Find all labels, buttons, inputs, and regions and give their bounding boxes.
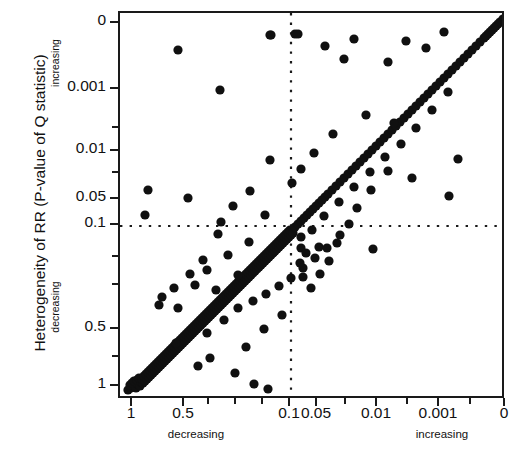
y-tick-label: 0.05 [0, 187, 106, 205]
x-axis-increasing-label: increasing [382, 428, 502, 440]
scatter-point [335, 230, 344, 239]
scatter-point [223, 250, 232, 259]
scatter-point [173, 45, 182, 54]
scatter-point [143, 185, 152, 194]
y-tick-label: 1 [0, 374, 106, 392]
scatter-point [411, 123, 420, 132]
scatter-point [396, 139, 405, 148]
scatter-point [421, 43, 430, 52]
scatter-point [401, 36, 410, 45]
scatter-point [453, 154, 462, 163]
scatter-point [427, 105, 436, 114]
x-tick-label: 0 [464, 404, 512, 422]
scatter-point [328, 129, 337, 138]
y-tick-label: 0.001 [0, 77, 106, 95]
scatter-point [202, 265, 211, 274]
scatter-point [286, 273, 295, 282]
scatter-points-layer [120, 13, 502, 396]
scatter-point [154, 300, 163, 309]
scatter-point [198, 255, 207, 264]
scatter-point [307, 225, 316, 234]
scatter-point [233, 270, 242, 279]
scatter-point [293, 29, 302, 38]
x-minor-tick-mark [207, 398, 209, 404]
scatter-point [380, 152, 389, 161]
scatter-point [365, 167, 374, 176]
scatter-point [193, 361, 202, 370]
scatter-point [349, 34, 358, 43]
scatter-point [309, 148, 318, 157]
scatter-point [241, 342, 250, 351]
scatter-point [140, 210, 149, 219]
scatter-point [314, 242, 323, 251]
scatter-point [185, 269, 194, 278]
scatter-point [444, 191, 453, 200]
scatter-point [216, 217, 225, 226]
scatter-point [287, 178, 296, 187]
scatter-point [296, 164, 305, 173]
y-tick-mark [110, 327, 118, 329]
scatter-point [296, 232, 305, 241]
scatter-point [310, 253, 319, 262]
scatter-point [349, 182, 358, 191]
scatter-point [339, 54, 348, 63]
scatter-point [228, 201, 237, 210]
scatter-point [298, 272, 307, 281]
x-minor-tick-mark [234, 398, 236, 404]
scatter-point [260, 210, 269, 219]
y-tick-mark [110, 21, 118, 23]
y-tick-mark [110, 384, 118, 386]
scatter-point [266, 30, 275, 39]
scatter-point [171, 338, 180, 347]
scatter-point [215, 85, 224, 94]
scatter-point [202, 328, 211, 337]
scatter-point [324, 256, 333, 265]
scatter-point [190, 280, 199, 289]
scatter-point [334, 197, 343, 206]
y-tick-label: 0.5 [0, 317, 106, 335]
scatter-point [261, 289, 270, 298]
scatter-point [319, 211, 328, 220]
scatter-point [298, 263, 307, 272]
scatter-point [407, 173, 416, 182]
y-tick-mark [110, 149, 118, 151]
scatter-point [230, 368, 239, 377]
scatter-point [274, 281, 283, 290]
scatter-plot-figure: Heterogeneity of RR (P-value of Q statis… [0, 0, 512, 462]
scatter-point [205, 353, 214, 362]
x-minor-tick-mark [261, 398, 263, 404]
scatter-point [344, 219, 353, 228]
scatter-point [233, 303, 242, 312]
scatter-point [259, 324, 268, 333]
scatter-point [265, 155, 274, 164]
scatter-point [320, 41, 329, 50]
scatter-point [244, 237, 253, 246]
scatter-point [439, 27, 448, 36]
scatter-point [173, 303, 182, 312]
scatter-point [332, 238, 341, 247]
x-axis-decreasing-label: decreasing [136, 428, 256, 440]
scatter-point [352, 203, 361, 212]
scatter-point [213, 229, 222, 238]
scatter-point [245, 186, 254, 195]
plot-canvas [120, 13, 502, 396]
scatter-point [443, 87, 452, 96]
x-tick-label: 0.5 [143, 404, 223, 422]
scatter-point [322, 243, 331, 252]
y-tick-mark [110, 223, 118, 225]
scatter-point [301, 248, 310, 257]
scatter-point [315, 269, 324, 278]
scatter-point [157, 292, 166, 301]
scatter-point [481, 31, 490, 40]
scatter-point [277, 310, 286, 319]
y-tick-label: 0.1 [0, 213, 106, 231]
scatter-point [263, 384, 272, 393]
y-tick-mark [110, 87, 118, 89]
x-minor-tick-mark [344, 398, 346, 404]
scatter-point [249, 379, 258, 388]
y-tick-label: 0.01 [0, 139, 106, 157]
scatter-point [389, 118, 398, 127]
scatter-point [366, 185, 375, 194]
scatter-point [219, 315, 228, 324]
x-minor-tick-mark [469, 398, 471, 404]
